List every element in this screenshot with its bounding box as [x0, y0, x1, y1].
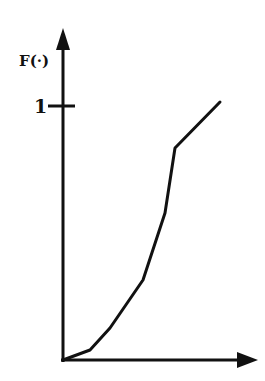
x-axis-arrow-icon [237, 352, 258, 368]
y-tick-label: 1 [34, 95, 47, 117]
cdf-curve [63, 102, 220, 360]
cdf-figure: 1 F(·) [0, 0, 265, 381]
y-axis-arrow-icon [56, 28, 70, 50]
y-axis-label: F(·) [19, 52, 49, 70]
